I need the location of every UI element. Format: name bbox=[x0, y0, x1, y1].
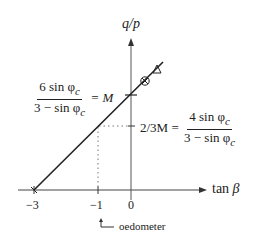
x-tick-label-minus-3: −3 bbox=[26, 198, 39, 213]
M-fraction: 6 sin φc 3 − sin φc bbox=[32, 80, 87, 118]
x-tick-label-0: 0 bbox=[128, 198, 134, 213]
oedometer-arrow-icon bbox=[99, 218, 114, 227]
two-thirds-M-prefix: 2/3M = bbox=[140, 120, 179, 135]
x-axis-arrow-icon bbox=[199, 187, 207, 193]
two-thirds-M-numerator: 4 sin φc bbox=[187, 110, 232, 130]
oedometer-label: oedometer bbox=[119, 220, 165, 232]
y-axis-arrow-icon bbox=[128, 38, 134, 46]
x-axis-label: tan β bbox=[212, 181, 240, 197]
M-definition-label: 6 sin φc 3 − sin φc = M bbox=[32, 80, 113, 118]
two-thirds-M-label: 2/3M = 4 sin φc 3 − sin φc bbox=[140, 110, 237, 148]
two-thirds-M-denominator: 3 − sin φc bbox=[182, 130, 237, 149]
M-equals: = M bbox=[90, 90, 113, 105]
y-axis-label: q/p bbox=[122, 16, 140, 32]
M-numerator: 6 sin φc bbox=[37, 80, 82, 100]
two-thirds-M-fraction: 4 sin φc 3 − sin φc bbox=[182, 110, 237, 148]
x-tick-label-minus-1: −1 bbox=[90, 198, 103, 213]
circle-cross-icon bbox=[141, 77, 149, 85]
M-denominator: 3 − sin φc bbox=[32, 100, 87, 119]
